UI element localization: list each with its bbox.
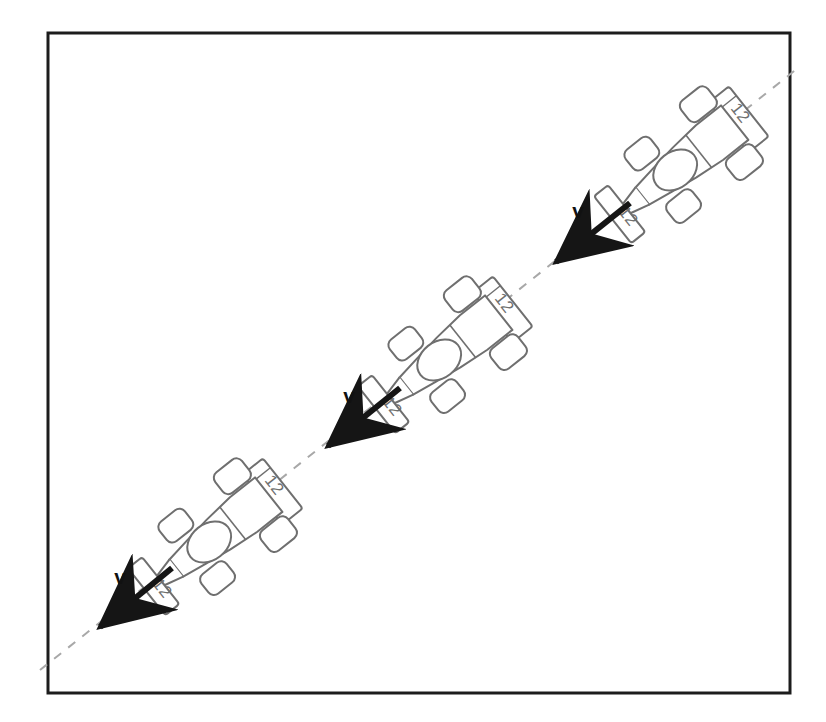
velocity-label-1: v bbox=[572, 199, 584, 222]
motion-diagram-canvas: 12 12 12 12 12 12 v v v bbox=[0, 0, 826, 722]
velocity-label-3: v bbox=[114, 565, 126, 588]
velocity-label-2: v bbox=[343, 384, 355, 407]
figure-root: 12 12 12 12 12 12 v v v bbox=[0, 0, 826, 722]
